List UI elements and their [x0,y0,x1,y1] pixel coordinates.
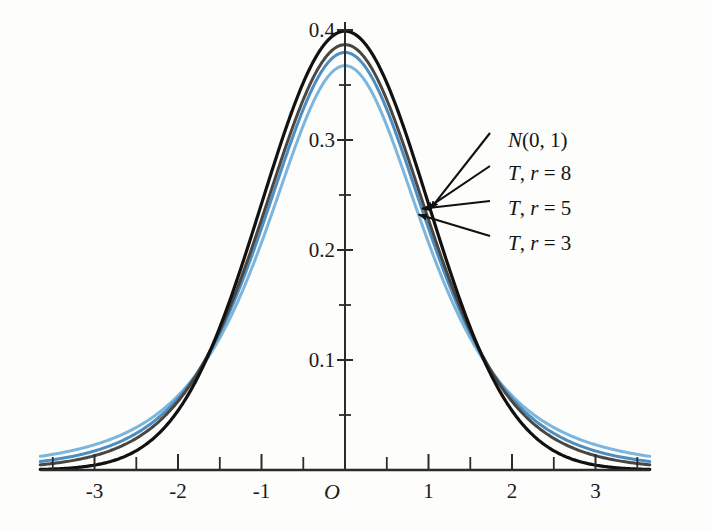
series-label-4: T, r = 3 [508,231,571,256]
series-label-detail: (0, 1) [522,128,568,152]
series-label-1: N(0, 1) [508,128,568,153]
series-label-detail: , r = 3 [520,231,572,255]
x-tick-label-neg1: -1 [253,479,271,504]
series-label-detail: , r = 5 [520,196,572,220]
y-tick-label-0p2: 0.2 [293,238,335,263]
series-label-2: T, r = 8 [508,161,571,186]
series-label-symbol: T [508,161,520,185]
plot-canvas [0,0,711,531]
x-tick-label-neg3: -3 [86,479,104,504]
x-tick-label-1: 1 [423,479,434,504]
series-label-symbol: T [508,196,520,220]
x-tick-label-neg2: -2 [169,479,187,504]
x-tick-label-2: 2 [507,479,518,504]
y-tick-label-0p3: 0.3 [293,128,335,153]
y-tick-label-0p4: 0.4 [293,18,335,43]
series-label-symbol: N [508,128,522,152]
x-tick-label-3: 3 [590,479,601,504]
series-label-symbol: T [508,231,520,255]
density-comparison-figure: -3-2-1O123 0.10.20.30.4 N(0, 1)T, r = 8T… [0,0,711,531]
y-tick-label-0p1: 0.1 [293,348,335,373]
series-label-detail: , r = 8 [520,161,572,185]
series-label-3: T, r = 5 [508,196,571,221]
x-tick-label-O: O [324,479,340,505]
